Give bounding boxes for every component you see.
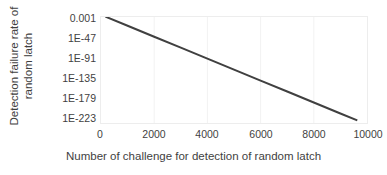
x-axis-tick-labels: 0 2000 4000 6000 8000 10000	[0, 128, 387, 142]
x-axis-title: Number of challenge for detection of ran…	[0, 150, 387, 162]
y-axis-title-line-2: random latch	[22, 33, 36, 99]
x-tick-label: 4000	[177, 128, 237, 140]
x-tick-label: 0	[70, 128, 130, 140]
y-axis-title: Detection failure rate of random latch	[0, 0, 44, 132]
x-tick-label: 8000	[284, 128, 344, 140]
y-tick-label: 1E-179	[40, 92, 96, 104]
data-series-line	[106, 17, 356, 120]
y-axis-title-line-1: Detection failure rate of	[8, 7, 22, 126]
x-tick-label: 6000	[231, 128, 291, 140]
y-tick-label: 1E-91	[40, 52, 96, 64]
y-tick-label: 0.001	[40, 12, 96, 24]
y-tick-label: 1E-135	[40, 72, 96, 84]
y-axis-tick-labels: 0.001 1E-47 1E-91 1E-135 1E-179 1E-223	[40, 14, 96, 124]
chart-figure: Detection failure rate of random latch 0…	[0, 0, 387, 175]
plot-area	[100, 16, 368, 124]
plot-canvas	[101, 17, 367, 123]
x-tick-label: 10000	[338, 128, 387, 140]
y-tick-label: 1E-47	[40, 32, 96, 44]
x-tick-label: 2000	[124, 128, 184, 140]
y-tick-label: 1E-223	[40, 112, 96, 124]
